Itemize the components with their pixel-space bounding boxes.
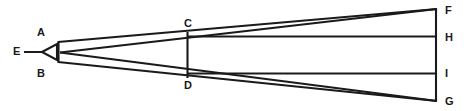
ray-apex-to-g <box>60 53 437 102</box>
light-source-arrow-icon <box>24 44 57 60</box>
ray-diagram-figure: E A B C D F H I G <box>0 0 472 111</box>
point-label-c: C <box>184 18 192 29</box>
point-label-f: F <box>445 5 452 16</box>
point-label-i: I <box>445 68 448 79</box>
ray-apex-to-f <box>60 9 437 53</box>
point-label-b: B <box>37 68 45 79</box>
ray-diagram-canvas <box>0 0 472 111</box>
point-label-d: D <box>184 80 192 91</box>
point-label-a: A <box>37 27 45 38</box>
point-label-h: H <box>445 32 453 43</box>
point-label-e: E <box>13 46 20 57</box>
ray-b-to-g <box>58 62 437 101</box>
point-label-g: G <box>445 96 454 107</box>
